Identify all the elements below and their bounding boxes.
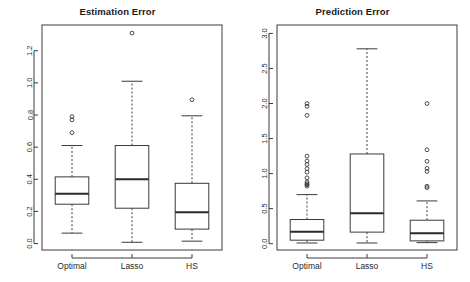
y-axis-tick-label: 1.5: [261, 133, 270, 143]
outlier-point: [425, 102, 429, 106]
y-axis-tick-label: 0.0: [26, 238, 35, 248]
y-axis-tick-label: 2.0: [261, 98, 270, 108]
y-axis-tick-label: 1.0: [26, 78, 35, 88]
y-axis-tick-label: 3.0: [261, 28, 270, 38]
y-axis-tick-label: 2.5: [261, 63, 270, 73]
box-iqr: [55, 177, 89, 204]
box-iqr: [175, 183, 209, 229]
x-axis-tick-label: Optimal: [292, 261, 321, 271]
outlier-point: [305, 114, 309, 118]
boxplot-optimal: [290, 102, 324, 243]
boxplot-hs: [175, 98, 209, 241]
outlier-point: [70, 131, 74, 135]
outlier-point: [305, 154, 309, 158]
outlier-point: [190, 98, 194, 102]
y-axis-tick-label: 1.2: [26, 45, 35, 55]
outlier-point: [130, 31, 134, 35]
panel-estimation-error: Estimation Error 0.00.20.40.60.81.01.2Op…: [0, 0, 235, 282]
y-axis-tick-label: 1.0: [261, 168, 270, 178]
prediction-error-plot: 0.00.51.01.52.02.53.0OptimalLassoHS: [235, 0, 470, 282]
panel-prediction-error: Prediction Error 0.00.51.01.52.02.53.0Op…: [235, 0, 470, 282]
outlier-point: [305, 176, 309, 180]
x-axis-tick-label: HS: [186, 261, 198, 271]
boxplot-lasso: [350, 49, 384, 243]
box-iqr: [350, 154, 384, 232]
boxplot-optimal: [55, 115, 89, 233]
box-iqr: [115, 146, 149, 209]
box-iqr: [290, 220, 324, 241]
y-axis-tick-label: 0.8: [26, 110, 35, 120]
y-axis-tick-label: 0.2: [26, 206, 35, 216]
y-axis-tick-label: 0.6: [26, 142, 35, 152]
x-axis-tick-label: Optimal: [57, 261, 86, 271]
estimation-error-plot: 0.00.20.40.60.81.01.2OptimalLassoHS: [0, 0, 235, 282]
x-axis-tick-label: Lasso: [121, 261, 144, 271]
x-axis-tick-label: HS: [421, 261, 433, 271]
y-axis-tick-label: 0.5: [261, 203, 270, 213]
y-axis-tick-label: 0.4: [26, 174, 35, 184]
x-axis-tick-label: Lasso: [356, 261, 379, 271]
boxplot-lasso: [115, 31, 149, 242]
boxplot-figure: Estimation Error 0.00.20.40.60.81.01.2Op…: [0, 0, 470, 282]
box-iqr: [410, 220, 444, 241]
y-axis-tick-label: 0.0: [261, 238, 270, 248]
outlier-point: [425, 159, 429, 163]
outlier-point: [425, 148, 429, 152]
boxplot-hs: [410, 102, 444, 243]
